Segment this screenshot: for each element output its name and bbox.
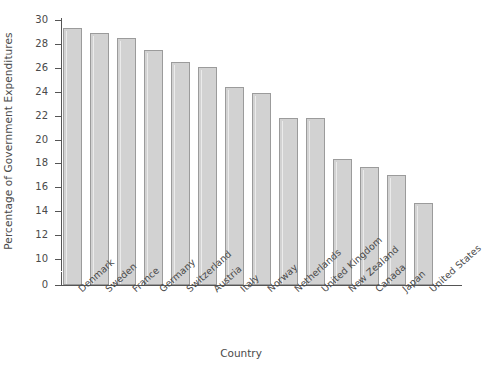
y-tick-label-22: 22 [4,111,48,121]
bar-chart: Percentage of Government Expenditures 01… [0,0,482,375]
bar [279,118,298,285]
x-axis-label: Country [0,347,482,359]
y-tick-24 [55,92,61,93]
y-tick-label-14: 14 [4,206,48,216]
plot-area [62,18,462,285]
bar [171,62,190,285]
y-tick-label-26: 26 [4,63,48,73]
y-tick-28 [55,44,61,45]
y-tick-label-24: 24 [4,87,48,97]
y-tick-label-20: 20 [4,135,48,145]
y-tick-22 [55,116,61,117]
y-tick-label-30: 30 [4,15,48,25]
y-tick-30 [55,20,61,21]
y-tick-label-16: 16 [4,182,48,192]
y-tick-label-28: 28 [4,39,48,49]
y-tick-26 [55,68,61,69]
x-axis-tick-labels: DenmarkSwedenFranceGermanySwitzerlandAus… [0,286,482,356]
bar [90,33,109,285]
y-tick-18 [55,163,61,164]
y-tick-16 [55,187,61,188]
y-tick-14 [55,211,61,212]
bar-series [62,18,462,285]
bar [198,67,217,285]
y-tick-label-10: 10 [4,254,48,264]
bar [63,28,82,285]
y-tick-10 [55,259,61,260]
bar [117,38,136,285]
y-tick-label-12: 12 [4,230,48,240]
y-tick-12 [55,235,61,236]
y-tick-20 [55,140,61,141]
bar [252,93,271,285]
y-tick-label-18: 18 [4,158,48,168]
bar [144,50,163,285]
